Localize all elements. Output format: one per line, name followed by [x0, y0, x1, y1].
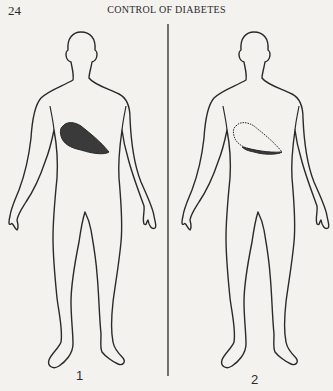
figure-2-body: [182, 32, 329, 368]
figure-1-label: 1: [76, 368, 83, 383]
figure-2-liver-dark-edge: [242, 147, 282, 154]
figure-illustration: [0, 0, 333, 391]
figure-1-body: [9, 32, 156, 368]
figure-2-liver-outline: [233, 123, 282, 154]
figure-2-label: 2: [251, 372, 258, 387]
figure-1-liver: [60, 123, 109, 154]
